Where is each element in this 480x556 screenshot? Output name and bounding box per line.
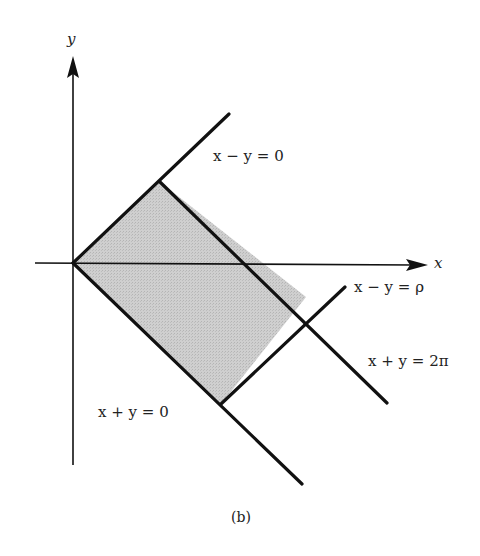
y-axis-label: y bbox=[67, 30, 75, 48]
label-x-plus-y-2pi: x + y = 2π bbox=[368, 352, 449, 370]
figure-caption: (b) bbox=[231, 509, 251, 525]
x-axis-label: x bbox=[434, 254, 442, 272]
shaded-region bbox=[73, 182, 306, 404]
label-x-minus-y-rho: x − y = ρ bbox=[354, 278, 424, 296]
label-x-minus-y-0: x − y = 0 bbox=[213, 147, 284, 165]
label-x-plus-y-0: x + y = 0 bbox=[98, 403, 169, 421]
